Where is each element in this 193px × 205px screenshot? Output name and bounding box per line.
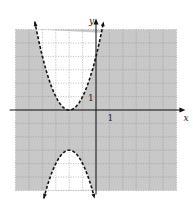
arrow-icon <box>101 22 105 27</box>
y-axis-label: y <box>88 16 95 26</box>
arrow-icon <box>92 193 96 198</box>
y-tick-label: 1 <box>88 93 94 103</box>
y-axis-arrow-icon <box>94 19 99 25</box>
arrow-icon <box>43 193 47 198</box>
x-axis-arrow-icon <box>179 108 185 113</box>
graph: xy11 <box>0 0 193 205</box>
x-axis-label: x <box>183 113 188 123</box>
x-tick-label: 1 <box>107 113 113 123</box>
